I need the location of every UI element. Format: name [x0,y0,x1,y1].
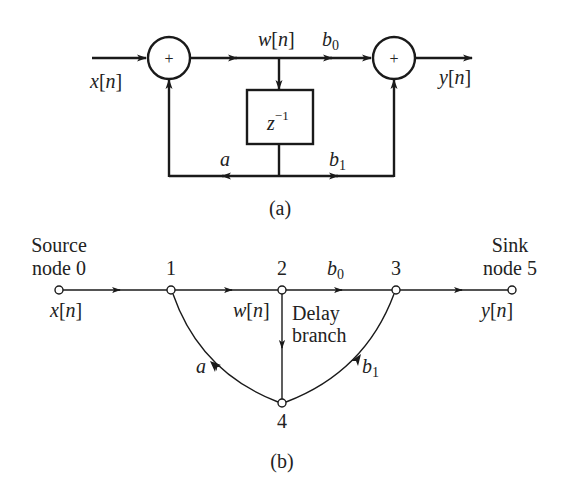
caption-a: (a) [269,197,291,220]
node-3 [392,286,400,294]
adder-1-symbol: + [164,50,173,67]
b1-label-b: b1 [362,355,379,380]
w-label-a: w[n] [258,28,295,50]
flow-graph-b [63,290,508,402]
flow-graph-b-labels: Source node 0 Sink node 5 1 2 3 4 b0 x[n… [31,234,537,473]
source-label-line2: node 0 [32,257,86,279]
node-2 [278,286,286,294]
source-label-line1: Source [31,234,87,256]
node-2-label: 2 [277,257,287,279]
node-0 [55,286,63,294]
node-3-label: 3 [391,257,401,279]
node-1 [167,286,175,294]
input-label-a: x[n] [89,70,122,92]
input-label-b: x[n] [49,299,82,321]
block-diagram-a [92,37,472,177]
b0-label-b: b0 [327,257,344,282]
delay-branch-label-line1: Delay [292,302,340,325]
node-4 [278,399,286,407]
node-4-label: 4 [277,410,287,432]
b0-label-a: b0 [322,28,339,53]
node-1-label: 1 [166,257,176,279]
b1-label-a: b1 [329,148,346,173]
signal-flow-figure: + + x[n] w[n] b0 y[n] z−1 a b1 (a) [0,0,561,485]
output-label-b: y[n] [479,299,513,322]
output-label-a: y[n] [437,66,471,89]
node-5 [508,286,516,294]
flow-graph-b-nodes [55,286,516,407]
w-label-b: w[n] [233,299,270,321]
adder-2-symbol: + [389,50,398,67]
caption-b: (b) [270,450,293,473]
a-label-b: a [196,355,206,377]
a-label-a: a [220,148,230,170]
sink-label-line1: Sink [492,234,529,256]
delay-branch-label-line2: branch [292,324,346,346]
sink-label-line2: node 5 [483,257,537,279]
